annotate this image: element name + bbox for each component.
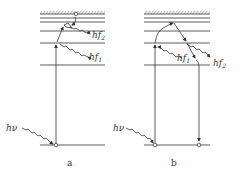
panel-b: hν hf1 hf2 b [113, 11, 226, 168]
hf2-label-b: hf2 [213, 58, 226, 69]
hf1-label-b: hf1 [177, 53, 190, 64]
down-diag-1 [174, 23, 186, 41]
up-arc [155, 23, 173, 43]
ground-state-a [54, 143, 58, 147]
panel-a: hν hf1 hf2 a [6, 11, 105, 168]
hv-label-a: hν [6, 123, 18, 133]
photon-hf2-a [70, 27, 90, 34]
down-arrow [196, 60, 199, 141]
energy-levels [144, 18, 210, 145]
continuum-hatch [40, 11, 105, 14]
relax-arrow [57, 27, 63, 42]
energy-level-diagram: hν hf1 hf2 a hν hf1 hf2 b [0, 0, 240, 171]
panel-caption-b: b [171, 158, 177, 168]
hv-label-b: hν [113, 123, 125, 133]
photon-hf2-b [187, 44, 210, 57]
photon-hv-b [126, 128, 153, 143]
hf2-label-a: hf2 [92, 30, 105, 41]
ground-state-b1 [153, 143, 157, 147]
panel-caption-a: a [67, 158, 73, 168]
ground-state-b2 [197, 143, 201, 147]
ionized-state-a [74, 12, 78, 16]
photon-hv-a [22, 128, 53, 144]
continuum-hatch [144, 11, 210, 14]
hf1-label-a: hf1 [89, 52, 102, 63]
photon-hf1-a [60, 44, 88, 57]
